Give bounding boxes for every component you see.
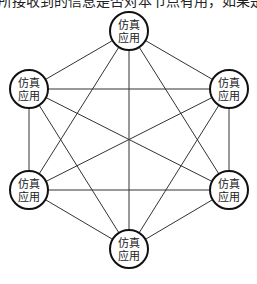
node-upper-right: 仿真 应用 [210, 70, 248, 108]
node-label-line1: 仿真 [118, 18, 140, 32]
node-label-line1: 仿真 [218, 177, 240, 191]
edge-bottom-upper-left [29, 89, 129, 249]
node-label-line1: 仿真 [18, 177, 40, 191]
node-label-line2: 应用 [18, 190, 40, 204]
edge-top-lower-right [129, 31, 229, 190]
edge-upper-right-bottom [129, 89, 229, 249]
node-bottom: 仿真 应用 [110, 230, 148, 268]
edge-top-lower-left [29, 31, 129, 190]
node-label-line2: 应用 [18, 89, 40, 103]
node-lower-right: 仿真 应用 [210, 171, 248, 209]
node-label-line2: 应用 [118, 249, 140, 263]
node-lower-left: 仿真 应用 [10, 171, 48, 209]
mesh-network-diagram: 仿真 应用 仿真 应用 仿真 应用 仿真 应用 仿真 应用 仿真 应用 [0, 0, 257, 284]
node-label-line2: 应用 [118, 31, 140, 45]
node-top: 仿真 应用 [110, 12, 148, 50]
node-upper-left: 仿真 应用 [10, 70, 48, 108]
node-label-line1: 仿真 [18, 76, 40, 90]
node-label-line1: 仿真 [218, 76, 240, 90]
node-label-line2: 应用 [218, 89, 240, 103]
node-label-line2: 应用 [218, 190, 240, 204]
edges [29, 31, 229, 249]
node-label-line1: 仿真 [118, 236, 140, 250]
